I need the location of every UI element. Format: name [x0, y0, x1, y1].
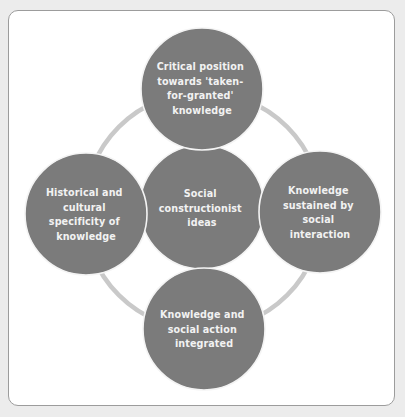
top-label-line: towards 'taken- [157, 76, 243, 87]
left-label-line: cultural [63, 202, 106, 213]
center-label-line: ideas [187, 217, 217, 228]
center-label-line: Social [184, 188, 217, 199]
right-label-line: Knowledge [288, 185, 349, 196]
top-circle [141, 28, 263, 150]
social-constructionism-diagram: Social constructionist ideas Critical po… [0, 0, 405, 417]
center-label-line: constructionist [159, 203, 242, 214]
node-center: Social constructionist ideas [140, 145, 264, 269]
top-label-line: Critical position [157, 61, 244, 72]
node-right: Knowledge sustained by social interactio… [259, 151, 381, 273]
left-label-line: Historical and [46, 187, 123, 198]
right-circle [259, 151, 381, 273]
node-left: Historical and cultural specificity of k… [25, 153, 147, 275]
right-label-line: sustained by [283, 200, 354, 211]
bottom-label-line: Knowledge and [160, 309, 245, 320]
bottom-label-line: integrated [175, 338, 233, 349]
left-label-line: specificity of [49, 216, 121, 227]
bottom-label-line: social action [168, 324, 237, 335]
node-top: Critical position towards 'taken- for-gr… [141, 28, 263, 150]
node-bottom: Knowledge and social action integrated [143, 268, 265, 390]
right-label-line: interaction [290, 229, 351, 240]
left-circle [25, 153, 147, 275]
right-label-line: social [302, 214, 334, 225]
top-label-line: knowledge [172, 105, 232, 116]
top-label-line: for-granted' [167, 90, 233, 101]
left-label-line: knowledge [56, 231, 116, 242]
